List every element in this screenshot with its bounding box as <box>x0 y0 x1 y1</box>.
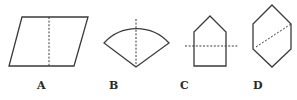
option-c-label: C <box>180 80 189 91</box>
option-d-shape <box>253 5 291 67</box>
option-a-label: A <box>37 80 46 91</box>
option-b-shape <box>104 19 169 67</box>
option-a-shape <box>9 17 88 66</box>
option-b-label: B <box>109 80 118 91</box>
option-c-shape <box>185 16 238 66</box>
hexagon-fold-line <box>256 24 291 47</box>
pentagon-outline <box>194 16 226 66</box>
option-d-label: D <box>253 80 263 91</box>
